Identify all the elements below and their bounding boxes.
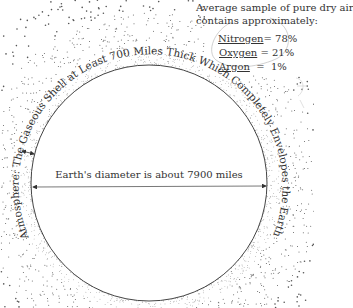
gas-percent: 78% <box>275 33 297 44</box>
gas-equals: = <box>264 33 276 44</box>
legend-row-nitrogen: Nitrogen= 78% <box>218 32 297 45</box>
legend-title-line1: Average sample of pure dry air <box>196 1 314 14</box>
legend-row-oxygen: Oxygen = 21% <box>219 46 294 59</box>
gas-percent: 21% <box>272 47 294 58</box>
air-composition-legend: Average sample of pure dry air contains … <box>196 1 314 27</box>
gas-name: Argon <box>219 61 250 72</box>
legend-title-line2: contains approximately: <box>196 14 314 27</box>
earth-circle <box>31 65 267 301</box>
gas-equals: = <box>257 47 272 58</box>
diameter-label: Earth's diameter is about 7900 miles <box>55 169 243 180</box>
gas-name: Nitrogen <box>218 33 264 44</box>
gas-percent: 1% <box>271 61 287 72</box>
gas-name: Oxygen <box>219 47 257 58</box>
gas-equals: = <box>250 61 271 72</box>
legend-row-argon: Argon = 1% <box>219 60 287 73</box>
